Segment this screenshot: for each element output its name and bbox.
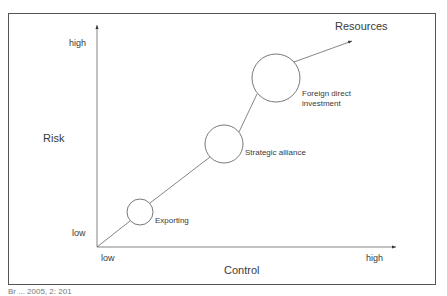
y-axis-high-label: high [69,38,86,48]
resources-label: Resources [335,20,388,32]
exporting-label: Exporting [155,216,189,226]
x-axis-title: Control [224,264,259,276]
fdi-label: Foreign direct investment [302,89,362,109]
fdi-circle [252,54,300,102]
y-axis-low-label: low [72,228,86,238]
source-caption: Br ... 2005, 2: 201 [8,287,72,296]
strategic-alliance-circle [205,125,243,163]
y-axis-title: Risk [43,132,64,144]
strategic-alliance-label: Strategic alliance [245,148,306,158]
x-axis-low-label: low [101,253,115,263]
x-axis-high-label: high [366,253,383,263]
exporting-circle [127,199,153,225]
